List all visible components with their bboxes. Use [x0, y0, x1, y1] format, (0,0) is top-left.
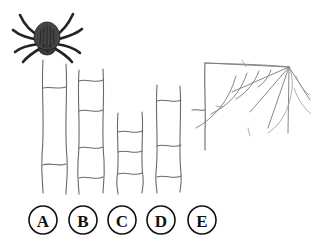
ladder-strip-a	[42, 60, 68, 194]
spider-web	[196, 60, 311, 136]
option-a-label: A	[37, 212, 50, 231]
option-d[interactable]: D	[147, 206, 175, 234]
spider	[13, 14, 82, 62]
puzzle-canvas: A B C D E	[0, 0, 311, 249]
option-b[interactable]: B	[69, 206, 97, 234]
puzzle-illustration: A B C D E	[0, 0, 311, 249]
answer-options[interactable]: A B C D E	[29, 206, 216, 234]
option-c[interactable]: C	[108, 206, 136, 234]
ladder-strip-d	[156, 85, 182, 193]
option-a[interactable]: A	[29, 206, 57, 234]
ladder-strip-b	[78, 69, 105, 194]
option-e[interactable]: E	[188, 206, 216, 234]
ladder-strip-e	[192, 63, 205, 150]
option-b-label: B	[77, 212, 88, 231]
option-e-label: E	[196, 212, 207, 231]
option-d-label: D	[155, 212, 167, 231]
ladder-group	[42, 60, 206, 194]
option-c-label: C	[116, 212, 128, 231]
ladder-strip-c	[117, 112, 144, 194]
